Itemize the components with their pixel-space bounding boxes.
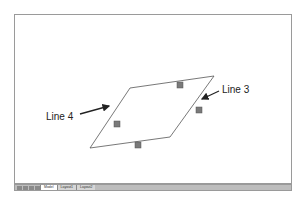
tab-nav-buttons[interactable] [17,186,40,190]
tab-layout1[interactable]: Layout1 [57,185,76,190]
parallelogram-shape[interactable] [90,76,214,148]
prev-tab-icon[interactable] [23,186,28,190]
line4-label: Line 4 [46,111,73,122]
grip-left[interactable] [114,121,120,127]
line3-arrow-icon [202,91,219,99]
grip-top[interactable] [177,82,183,88]
layout-tab-bar: Model Layout1 Layout2 [14,184,292,191]
line3-label: Line 3 [222,84,249,95]
tab-layout2[interactable]: Layout2 [76,185,95,190]
tab-model[interactable]: Model [40,185,57,190]
next-tab-icon[interactable] [29,186,34,190]
grip-right[interactable] [196,107,202,113]
grip-bottom[interactable] [135,142,141,148]
line4-arrow-icon [80,106,109,114]
first-tab-icon[interactable] [17,186,22,190]
drawing-canvas[interactable] [0,0,305,203]
